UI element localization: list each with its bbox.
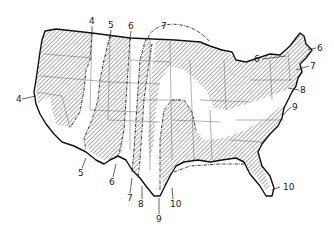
zone-label: 9	[156, 214, 162, 224]
zone-label: 6	[254, 54, 260, 64]
zone-label: 4	[16, 94, 22, 104]
zone-label: 10	[170, 199, 182, 209]
zone-plains-strip	[132, 38, 152, 176]
zone-label: 8	[138, 199, 144, 209]
zone-label: 7	[310, 61, 316, 71]
zone-label: 7	[127, 193, 133, 203]
zone-label: 5	[108, 20, 114, 30]
zone-label: 10	[283, 182, 295, 192]
zone-label: 6	[109, 177, 115, 187]
zone-label: 5	[78, 168, 84, 178]
zone-label: 9	[292, 102, 298, 112]
zone-label: 6	[128, 21, 134, 31]
zone-label: 4	[89, 16, 95, 26]
zone-label: 6	[317, 43, 323, 53]
zone-map: 4 4 5 6 7 5 6 7 8 9 10 10 6 6 7 8 9	[0, 0, 334, 241]
zone-label: 7	[161, 21, 167, 31]
zone-northwest	[36, 30, 92, 128]
zone-label: 8	[300, 85, 306, 95]
